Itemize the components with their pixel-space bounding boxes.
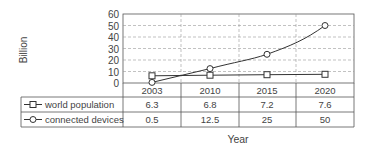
table-row: connected devices 0.5 12.5 25 50 [24,114,330,125]
table-cell: 0.5 [145,114,158,125]
series-connected-devices-line [152,26,325,83]
y-axis-label: Billion [18,37,29,64]
table-cell: 7.2 [260,99,273,110]
category-labels: 2003 2010 2015 2020 [141,85,335,96]
table-cell: 12.5 [201,114,220,125]
y-tick: 40 [108,32,120,43]
table-cell: 7.6 [318,99,331,110]
series-world-population-line [152,74,325,76]
circle-marker-icon [30,117,36,123]
table-cell: 6.8 [203,99,216,110]
legend-label: world population [44,99,114,110]
x-tick: 2010 [199,85,220,96]
y-axis: 60 50 40 30 20 10 0 [108,9,120,89]
x-tick: 2015 [256,85,277,96]
y-tick: 0 [113,78,119,89]
legend-label: connected devices [45,114,124,125]
line-chart: 60 50 40 30 20 10 0 Billion [0,0,371,150]
table-cell: 25 [262,114,273,125]
table-row: world population 6.3 6.8 7.2 7.6 [24,99,332,110]
x-tick: 2003 [141,85,162,96]
table-cell: 6.3 [145,99,158,110]
y-tick: 60 [108,9,120,20]
y-tick: 30 [108,44,120,55]
table-cell: 50 [320,114,331,125]
x-tick: 2020 [314,85,335,96]
grid-lines [123,14,354,83]
y-tick: 20 [108,55,120,66]
y-tick: 50 [108,21,120,32]
x-axis-label: Year [227,133,249,145]
square-marker-icon [30,102,36,108]
y-tick: 10 [108,67,120,78]
